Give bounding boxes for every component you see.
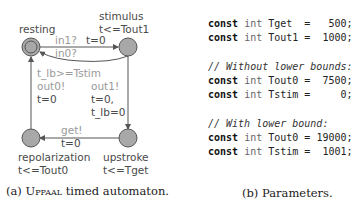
caption-prefix: (a) [6,184,26,198]
const-name: Tstim [268,89,298,100]
const-name: Tout0 [268,75,298,86]
location-name: repolarization [18,151,90,163]
location-resting [22,38,40,56]
keyword: const [208,18,238,29]
location-invariant: t<=Tget [103,164,148,176]
parameters-figure: const int Tget = 500; const int Tout1 = … [190,0,361,205]
location-upstroke [119,129,137,147]
type: int [244,32,262,43]
const-name: Tout0 [268,132,298,143]
location-invariant: t<=Tout0 [18,164,68,176]
const-value: 19000; [316,132,352,143]
edge-sync-label: out0! [37,80,65,92]
code-block-3: // With lower bound: const int Tout0 = 1… [208,117,353,159]
code-block-1: const int Tget = 500; const int Tout1 = … [208,17,353,45]
edge-sync-label: out1! [91,80,119,92]
type: int [244,89,262,100]
edge-update-label: t=0, [91,93,114,105]
comment: // Without lower bounds: [208,61,353,72]
keyword: const [208,146,238,157]
edge-stimulus-resting [40,52,128,61]
const-value: 0; [316,89,352,100]
code-block-2: // Without lower bounds: const int Tout0… [208,60,353,102]
type: int [244,132,262,143]
keyword: const [208,89,238,100]
keyword: const [208,75,238,86]
type: int [244,75,262,86]
location-name: resting [19,23,55,35]
edge-update-label: t_lb=0 [91,106,125,119]
caption-suffix: timed automaton. [62,184,169,198]
const-value: 1000; [316,32,352,43]
edge-guard-label: t_lb>=Tstim [37,67,101,80]
comment: // With lower bound: [208,118,328,129]
const-name: Tout1 [268,32,298,43]
location-invariant: t<=Tout1 [99,23,149,35]
edge-update-label: t=0 [37,93,57,105]
edge-update-label: t=0 [86,34,106,46]
automaton-caption: (a) Uppaal timed automaton. [6,184,169,198]
location-name: stimulus [99,10,143,22]
type: int [244,18,262,29]
const-value: 7500; [316,75,352,86]
keyword: const [208,132,238,143]
location-stimulus [119,38,137,56]
type: int [244,146,262,157]
parameters-caption: (b) Parameters. [242,186,333,200]
edge-sync-label: in1? [55,34,77,46]
keyword: const [208,32,238,43]
edge-sync-label: in0? [55,47,77,59]
const-name: Tget [268,18,298,29]
const-name: Tstim [268,146,298,157]
const-value: 1001; [316,146,352,157]
edge-update-label: t=0 [61,137,81,149]
automaton-diagram: resting stimulus t<=Tout1 upstroke t<=Tg… [0,0,185,180]
caption-tool-name: Uppaal [26,184,63,198]
edge-sync-label: get! [61,124,82,136]
automaton-figure: resting stimulus t<=Tout1 upstroke t<=Tg… [0,0,185,205]
location-name: upstroke [103,151,149,163]
const-value: 500; [316,18,352,29]
location-repolarization [22,129,40,147]
